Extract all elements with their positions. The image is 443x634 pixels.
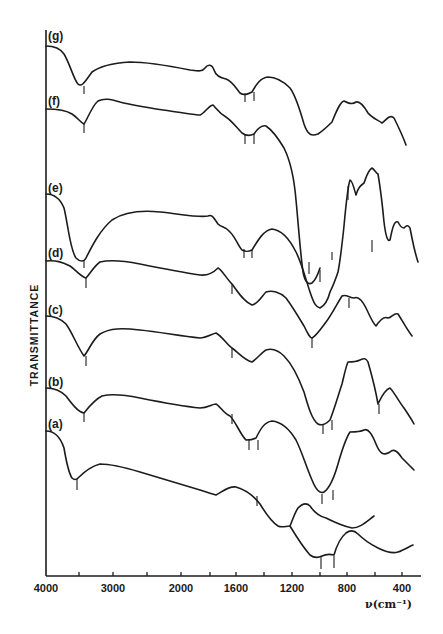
series-label-d: (d) — [48, 246, 63, 260]
x-tick-label: 3000 — [101, 582, 125, 594]
ir-spectra-chart: 4000 3000 2000 1600 1200 800 400 ν(cm⁻¹)… — [0, 0, 443, 634]
spectrum-c — [46, 316, 414, 425]
spectrum-a-tail — [290, 526, 413, 557]
spectrum-a — [46, 431, 374, 528]
y-axis-label: TRANSMITTANCE — [28, 284, 40, 387]
x-axis-label: ν(cm⁻¹) — [365, 598, 412, 611]
series-label-e: (e) — [48, 181, 63, 195]
x-tick-label: 400 — [393, 582, 411, 594]
x-tick-label: 1600 — [224, 582, 248, 594]
series-label-c: (c) — [48, 303, 63, 317]
figure-caption-cropped — [18, 619, 438, 633]
x-tick-label: 2000 — [169, 582, 193, 594]
series-label-f: (f) — [48, 94, 60, 108]
series-label-g: (g) — [48, 29, 63, 43]
spectrum-d — [46, 261, 412, 338]
spectrum-b — [46, 388, 414, 493]
series-label-a: (a) — [48, 417, 63, 431]
x-tick-label: 4000 — [34, 582, 58, 594]
x-tick-label: 1200 — [280, 582, 304, 594]
series-label-b: (b) — [48, 375, 63, 389]
x-tick-label: 800 — [338, 582, 356, 594]
spectrum-g — [46, 46, 406, 145]
